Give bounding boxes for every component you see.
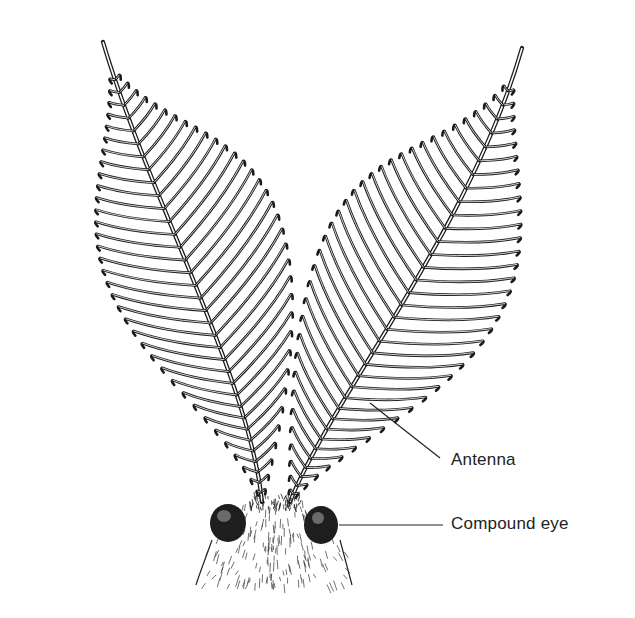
head-hair xyxy=(285,500,286,506)
antenna-branch xyxy=(99,174,154,183)
head-hair xyxy=(245,553,247,560)
head-hair xyxy=(275,526,276,533)
head-hair xyxy=(279,495,280,499)
head-hair xyxy=(202,583,206,588)
moth-head xyxy=(196,492,352,594)
head-hair xyxy=(235,580,238,586)
antenna-branch xyxy=(479,156,517,161)
head-hair xyxy=(271,547,272,552)
antenna-branch xyxy=(101,162,149,170)
head-hair xyxy=(239,540,242,547)
antenna-branch xyxy=(215,430,250,440)
head-hair xyxy=(311,542,313,550)
head-hair xyxy=(236,548,238,553)
head-hair xyxy=(300,533,302,542)
head-hair xyxy=(300,574,301,579)
head-hair xyxy=(227,568,230,576)
head-hair xyxy=(270,563,271,573)
head-hair xyxy=(248,577,249,583)
head-hair xyxy=(250,578,251,582)
head-hair xyxy=(217,578,220,587)
compound-eye-label: Compound eye xyxy=(451,514,569,534)
right-compound-eye xyxy=(304,506,338,544)
head-hair xyxy=(297,556,298,565)
left-eye-highlight xyxy=(217,510,231,522)
head-hair xyxy=(279,502,280,508)
head-hair xyxy=(301,542,303,550)
antenna-branch xyxy=(102,150,143,157)
antenna-branch xyxy=(180,161,245,247)
antenna-branch xyxy=(359,375,452,379)
head-hair xyxy=(283,496,285,500)
head-hair xyxy=(256,521,258,526)
head-hair xyxy=(329,582,333,591)
head-hair xyxy=(206,548,210,556)
head-hair xyxy=(289,508,290,511)
head-hair xyxy=(279,535,280,544)
antenna-branch xyxy=(138,110,166,144)
head-hair xyxy=(248,533,249,541)
head-hair xyxy=(212,575,216,579)
antenna-branch xyxy=(96,234,180,248)
antenna-label: Antenna xyxy=(451,450,516,470)
head-hair xyxy=(264,546,265,551)
head-hair xyxy=(270,537,271,542)
antenna-branch xyxy=(431,137,466,189)
antenna-branch-core xyxy=(180,161,243,247)
head-hair xyxy=(289,504,290,507)
head-hair xyxy=(338,553,342,561)
head-hair xyxy=(262,523,263,527)
head-hair xyxy=(300,507,302,512)
head-hair xyxy=(278,538,279,546)
head-hair xyxy=(341,582,344,589)
antenna-branch xyxy=(97,186,159,196)
head-hair xyxy=(279,577,280,581)
head-hair xyxy=(302,500,303,508)
antenna-branch-core xyxy=(119,83,127,93)
antenna-branch-core xyxy=(291,476,297,485)
antenna-branch xyxy=(224,277,291,360)
head-hair xyxy=(303,579,304,588)
antenna-branch xyxy=(95,222,175,235)
head-hair xyxy=(263,519,264,523)
head-hair xyxy=(284,584,285,593)
head-hair xyxy=(337,545,340,552)
head-hair xyxy=(229,556,232,564)
antenna-branch-core xyxy=(339,211,394,317)
head-hair xyxy=(298,560,300,568)
head-hair xyxy=(244,504,245,511)
antenna-pointer-line xyxy=(370,403,440,458)
head-hair xyxy=(255,495,256,501)
head-hair xyxy=(297,534,299,539)
head-hair xyxy=(289,529,291,536)
head-hair xyxy=(271,582,272,588)
head-hair xyxy=(309,554,311,560)
antenna-branch-core xyxy=(346,200,401,305)
head-hair xyxy=(333,557,337,561)
head-hair xyxy=(275,508,276,515)
head-hair xyxy=(207,571,210,576)
head-hair xyxy=(298,498,299,502)
antenna-branch-core xyxy=(332,223,387,329)
head-hair xyxy=(269,506,270,513)
head-hair xyxy=(307,546,308,555)
antenna-shaft-core xyxy=(290,48,522,502)
antenna-branch xyxy=(345,397,426,401)
head-hair xyxy=(343,575,347,579)
head-hair xyxy=(231,562,234,569)
head-hair xyxy=(259,508,260,513)
head-hair xyxy=(237,575,239,580)
head-hair xyxy=(298,503,299,506)
head-hair xyxy=(245,585,248,589)
head-hair xyxy=(253,554,255,561)
head-hair xyxy=(334,581,337,591)
head-hair xyxy=(299,500,301,504)
head-hair xyxy=(313,554,315,558)
head-hair xyxy=(294,504,295,508)
head-hair xyxy=(273,535,274,544)
antenna-branch-core xyxy=(185,170,251,260)
head-hair xyxy=(286,569,287,575)
head-hair xyxy=(256,563,257,569)
head-hair xyxy=(242,505,243,511)
antenna-branch xyxy=(442,131,472,175)
